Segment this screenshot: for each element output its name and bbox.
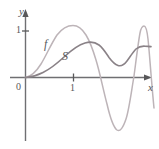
y-tick-label-1: 1 xyxy=(16,25,21,35)
origin-label: 0 xyxy=(16,82,21,92)
plot-canvas xyxy=(0,0,159,149)
x-tick-label-1: 1 xyxy=(70,83,75,93)
curve-label-s: S xyxy=(62,50,68,62)
graph-figure: y x 0 1 1 f S xyxy=(0,0,159,149)
curve-label-f: f xyxy=(44,38,47,50)
x-axis-label: x xyxy=(148,82,153,93)
y-axis-label: y xyxy=(19,6,24,17)
